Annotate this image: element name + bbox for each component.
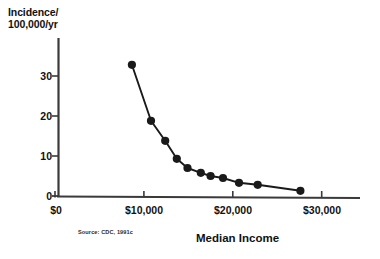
data-point-3 [173, 155, 181, 163]
data-point-9 [254, 181, 262, 189]
chart-figure: Incidence/ 100,000/yr Median Income Sour… [0, 0, 380, 259]
data-point-1 [147, 117, 155, 125]
data-point-markers [128, 61, 305, 195]
data-point-6 [207, 172, 215, 180]
data-point-8 [235, 179, 243, 187]
x-axis-line [57, 197, 360, 199]
data-line [132, 65, 301, 191]
data-point-5 [197, 169, 205, 177]
data-point-7 [219, 174, 227, 182]
plot-area [0, 0, 380, 259]
data-point-10 [296, 187, 304, 195]
data-point-0 [128, 61, 136, 69]
data-point-2 [161, 137, 169, 145]
data-point-4 [183, 164, 191, 172]
